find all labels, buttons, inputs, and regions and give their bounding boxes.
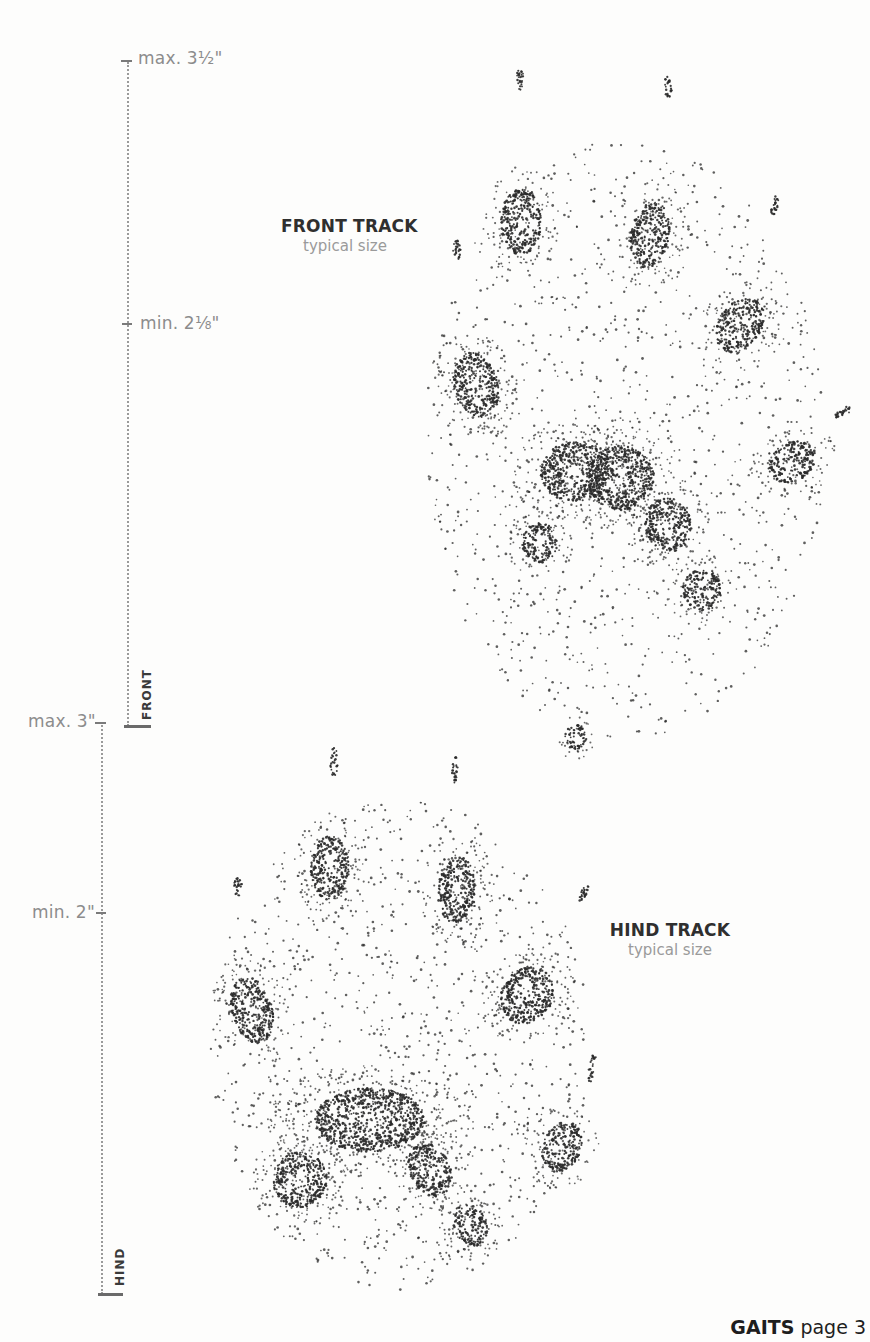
hind-ruler-end-bar bbox=[98, 1293, 123, 1296]
front-min-label: min. 2⅛" bbox=[140, 313, 220, 333]
front-ruler-end-bar bbox=[124, 725, 151, 728]
hind-max-label: max. 3" bbox=[28, 711, 96, 731]
page-footer: GAITS page 3 bbox=[730, 1316, 866, 1338]
front-track-subtitle: typical size bbox=[281, 237, 409, 255]
track-page: max. 3½" min. 2⅛" FRONT max. 3" min. 2" … bbox=[0, 0, 870, 1342]
hind-min-label: min. 2" bbox=[32, 902, 95, 922]
hind-ruler-name: HIND bbox=[113, 1247, 127, 1286]
paw-track-illustration bbox=[0, 0, 870, 1342]
hind-ruler-dotted-line bbox=[101, 722, 103, 1294]
front-max-tick bbox=[121, 60, 132, 62]
hind-track-title: HIND TRACK bbox=[606, 920, 734, 940]
front-min-tick bbox=[122, 323, 132, 325]
footer-page-number: page 3 bbox=[800, 1316, 866, 1338]
hind-track-subtitle: typical size bbox=[606, 941, 734, 959]
front-max-label: max. 3½" bbox=[138, 48, 223, 68]
hind-track-caption: HIND TRACK typical size bbox=[606, 920, 734, 959]
front-track-caption: FRONT TRACK typical size bbox=[281, 216, 409, 255]
front-ruler-name: FRONT bbox=[140, 669, 154, 720]
hind-max-tick bbox=[95, 722, 106, 724]
footer-section: GAITS bbox=[730, 1316, 794, 1338]
front-track-title: FRONT TRACK bbox=[281, 216, 409, 236]
front-ruler-dotted-line bbox=[127, 62, 129, 726]
hind-min-tick bbox=[96, 912, 106, 914]
